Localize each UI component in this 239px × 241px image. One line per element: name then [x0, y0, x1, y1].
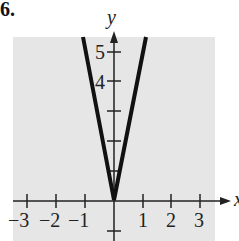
x-tick-label: −3	[8, 209, 29, 231]
y-tick-label: 4	[95, 71, 105, 93]
graph: −3 −2 −1 1 2 3 x 5 4 y	[0, 0, 239, 241]
x-tick-label: 3	[194, 209, 204, 231]
y-axis-label: y	[105, 6, 116, 29]
x-tick-label: −2	[39, 209, 60, 231]
x-tick-label: 1	[138, 209, 148, 231]
y-tick-label: 5	[95, 41, 105, 63]
x-tick-label: 2	[166, 209, 176, 231]
x-tick-label: −1	[68, 209, 89, 231]
x-axis-arrow-icon	[220, 197, 231, 205]
x-axis-label: x	[233, 188, 239, 210]
